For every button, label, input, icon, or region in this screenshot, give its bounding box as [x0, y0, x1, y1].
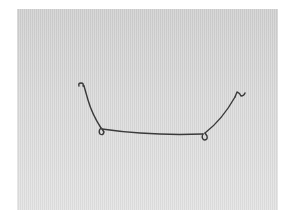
left-hook — [79, 83, 84, 86]
right-arm — [205, 97, 235, 133]
right-loop — [202, 133, 207, 140]
right-hook — [235, 92, 245, 97]
bottom-bar — [102, 129, 203, 134]
left-arm — [84, 86, 101, 128]
wire-illustration — [0, 0, 295, 215]
